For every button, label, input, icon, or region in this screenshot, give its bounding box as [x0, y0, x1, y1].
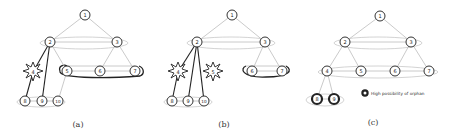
svg-text:6: 6	[393, 68, 396, 74]
legend: High possibility of orphan	[362, 90, 424, 95]
node: 7	[130, 66, 140, 76]
svg-text:7: 7	[280, 68, 283, 74]
svg-text:5: 5	[359, 68, 362, 74]
svg-text:4: 4	[325, 68, 328, 74]
panel-caption: (b)	[218, 120, 229, 129]
node: 4	[322, 66, 332, 76]
panel-c: 1 2 3 4 5 6 7 8 9 High possibility of or…	[306, 11, 438, 127]
node: 1	[375, 11, 385, 21]
panel-b: 4 5 1 2 3 6 7 8 9 10 (b)	[164, 10, 289, 129]
node: 6	[247, 66, 257, 76]
level-ellipse	[318, 66, 438, 78]
svg-text:1: 1	[378, 13, 381, 19]
node-label: 5	[211, 69, 214, 75]
svg-text:1: 1	[83, 12, 86, 18]
edge-bold	[42, 42, 50, 101]
edge	[232, 15, 265, 42]
tree-failure-diagram: 4 1 2 3 5 6 7 8 9 10 (a) 4 5	[0, 0, 456, 135]
svg-text:2: 2	[48, 39, 51, 45]
node: 2	[340, 37, 350, 47]
svg-text:6: 6	[98, 68, 101, 74]
node-label: 4	[31, 69, 34, 75]
svg-text:8: 8	[170, 98, 173, 104]
svg-text:2: 2	[195, 39, 198, 45]
svg-text:8: 8	[315, 96, 318, 102]
svg-text:8: 8	[23, 98, 26, 104]
svg-text:3: 3	[409, 39, 412, 45]
node: 8	[167, 96, 177, 106]
svg-text:10: 10	[201, 99, 207, 104]
edge-bold	[197, 42, 204, 101]
svg-text:3: 3	[263, 39, 266, 45]
svg-text:10: 10	[55, 99, 61, 104]
edge	[345, 16, 380, 42]
node: 8	[20, 96, 30, 106]
edge	[380, 16, 411, 42]
edge	[197, 15, 232, 42]
node-label: 4	[176, 69, 179, 75]
node: 10	[199, 96, 209, 106]
svg-text:2: 2	[343, 39, 346, 45]
node: 3	[260, 37, 270, 47]
svg-text:7: 7	[427, 68, 430, 74]
svg-text:7: 7	[133, 68, 136, 74]
edge	[85, 15, 117, 42]
node: 2	[45, 37, 55, 47]
svg-text:5: 5	[65, 68, 68, 74]
svg-text:9: 9	[40, 98, 43, 104]
panel-caption: (a)	[72, 120, 83, 129]
panel-caption: (c)	[368, 118, 379, 127]
node: 9	[183, 96, 193, 106]
node: 10	[53, 96, 63, 106]
svg-text:9: 9	[332, 96, 335, 102]
node: 3	[112, 37, 122, 47]
node: 6	[390, 66, 400, 76]
panel-a: 4 1 2 3 5 6 7 8 9 10 (a)	[17, 10, 143, 129]
svg-text:6: 6	[250, 68, 253, 74]
svg-text:1: 1	[230, 12, 233, 18]
node: 1	[80, 10, 90, 20]
orphan-node: 8	[312, 94, 322, 104]
node: 2	[192, 37, 202, 47]
svg-text:9: 9	[186, 98, 189, 104]
node: 5	[62, 66, 72, 76]
orphan-node: 9	[329, 94, 339, 104]
orphan-marker-icon	[362, 90, 367, 95]
edge-bold	[188, 42, 197, 101]
node: 3	[406, 37, 416, 47]
node: 7	[424, 66, 434, 76]
node: 9	[37, 96, 47, 106]
node: 1	[227, 10, 237, 20]
node: 7	[277, 66, 287, 76]
edge	[50, 15, 85, 42]
node: 6	[95, 66, 105, 76]
node: 5	[356, 66, 366, 76]
svg-text:3: 3	[115, 39, 118, 45]
legend-label: High possibility of orphan	[371, 91, 425, 96]
